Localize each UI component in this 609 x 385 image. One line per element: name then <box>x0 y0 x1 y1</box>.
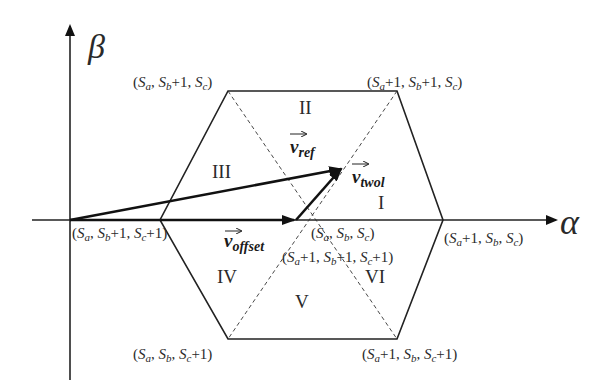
vertex-label-right: (Sa+1, Sb, Sc) <box>444 230 523 248</box>
vertex-label-center-upper: (Sa, Sb, Sc) <box>311 225 374 243</box>
sector-III: III <box>212 161 231 182</box>
svg-text:vtwol: vtwol <box>352 166 385 190</box>
sector-I: I <box>378 192 384 213</box>
beta-label: β <box>87 28 105 65</box>
sector-II: II <box>299 97 312 118</box>
alpha-label: α <box>560 202 580 242</box>
vertex-label-top-right: (Sa+1, Sb+1, Sc) <box>367 74 462 92</box>
sector-dividers <box>228 91 397 339</box>
vref-label: vref <box>290 134 316 160</box>
voffset-label: voffset <box>224 230 265 254</box>
vertex-label-bottom-left: (Sa, Sb, Sc+1) <box>133 346 212 364</box>
sector-VI: VI <box>365 266 385 287</box>
sector-IV: IV <box>217 266 237 287</box>
svg-text:vref: vref <box>290 136 316 160</box>
vertex-label-center-lower: (Sa+1, Sb+1, Sc+1) <box>282 249 393 267</box>
sector-V: V <box>295 291 309 312</box>
vertex-label-left: (Sa, Sb+1, Sc+1) <box>72 225 167 243</box>
vertex-label-top-left: (Sa, Sb+1, Sc) <box>133 74 212 92</box>
svg-text:voffset: voffset <box>224 230 265 254</box>
space-vector-diagram: β α I II III IV V VI (Sa, Sb+1, Sc) (Sa+… <box>0 0 609 385</box>
vref-arrow <box>70 169 341 220</box>
vtwol-label: vtwol <box>352 164 385 190</box>
vertex-label-bottom-right: (Sa+1, Sb, Sc+1) <box>362 346 457 364</box>
